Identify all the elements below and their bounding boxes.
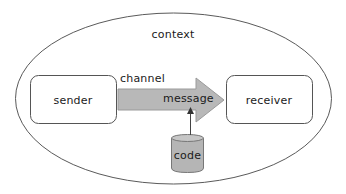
context-label: context	[0, 29, 346, 40]
code-label: code	[171, 150, 204, 161]
channel-label: channel	[120, 73, 165, 84]
message-label: message	[163, 93, 214, 104]
sender-label: sender	[30, 95, 116, 106]
communication-diagram: context sender receiver channel message …	[0, 0, 346, 194]
receiver-label: receiver	[226, 95, 312, 106]
